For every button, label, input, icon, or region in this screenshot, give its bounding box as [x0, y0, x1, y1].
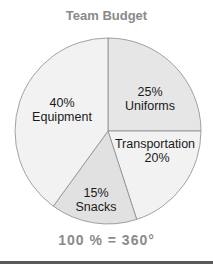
label-uniforms-pct: 25%	[137, 85, 162, 99]
label-equipment-name: Equipment	[32, 110, 92, 124]
divider	[0, 261, 213, 264]
pie-chart: 25% Uniforms Transportation 20% 15% Snac…	[0, 0, 213, 269]
label-transportation-pct: 20%	[144, 151, 169, 165]
footer-equation: 100 % = 360°	[0, 232, 213, 248]
label-snacks-pct: 15%	[83, 186, 108, 200]
label-equipment-pct: 40%	[49, 96, 74, 110]
label-snacks-name: Snacks	[76, 200, 117, 214]
label-transportation-name: Transportation	[115, 137, 195, 151]
label-uniforms-name: Uniforms	[125, 99, 175, 113]
